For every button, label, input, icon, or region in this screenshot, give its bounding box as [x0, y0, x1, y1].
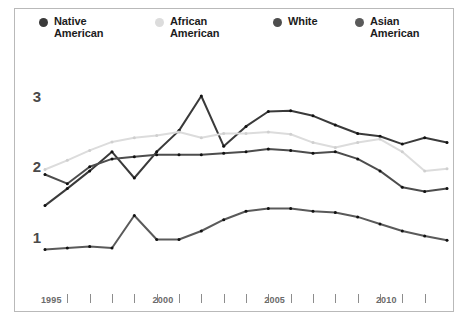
series-marker — [401, 143, 404, 146]
series-marker — [423, 169, 426, 172]
series-marker — [111, 157, 114, 160]
series-marker — [446, 187, 449, 190]
series-marker — [312, 141, 315, 144]
series-marker — [155, 150, 158, 153]
series-marker — [111, 247, 114, 250]
series-marker — [200, 153, 203, 156]
series-marker — [446, 167, 449, 170]
series-marker — [312, 114, 315, 117]
series-marker — [423, 235, 426, 238]
x-axis-tick — [112, 294, 113, 303]
x-axis-tick — [335, 294, 336, 303]
series-marker — [66, 187, 69, 190]
series-marker — [446, 239, 449, 242]
x-axis-tick — [179, 294, 180, 303]
series-marker — [155, 153, 158, 156]
series-marker — [334, 150, 337, 153]
series-marker — [267, 207, 270, 210]
series-line-white — [45, 149, 447, 191]
series-marker — [379, 223, 382, 226]
series-marker — [312, 210, 315, 213]
series-marker — [312, 152, 315, 155]
series-marker — [423, 136, 426, 139]
series-marker — [245, 210, 248, 213]
series-marker — [88, 169, 91, 172]
chart-frame: Native AmericanAfrican AmericanWhiteAsia… — [14, 8, 454, 312]
series-marker — [267, 110, 270, 113]
x-axis-label: 2000 — [153, 295, 174, 305]
series-marker — [222, 218, 225, 221]
series-marker — [379, 135, 382, 138]
x-axis-label: 2005 — [264, 295, 285, 305]
series-marker — [133, 214, 136, 217]
series-marker — [289, 149, 292, 152]
series-marker — [289, 207, 292, 210]
series-marker — [401, 186, 404, 189]
series-marker — [222, 145, 225, 148]
series-marker — [423, 190, 426, 193]
series-marker — [111, 150, 114, 153]
series-marker — [379, 138, 382, 141]
series-marker — [334, 124, 337, 127]
chart-plot-area: 1231995200020052010 — [15, 9, 455, 313]
series-marker — [178, 238, 181, 241]
series-marker — [222, 152, 225, 155]
series-marker — [88, 245, 91, 248]
x-axis-tick — [224, 294, 225, 303]
series-marker — [44, 168, 47, 171]
series-marker — [200, 230, 203, 233]
series-marker — [133, 177, 136, 180]
series-marker — [200, 95, 203, 98]
series-marker — [356, 132, 359, 135]
x-axis-label: 2010 — [376, 295, 397, 305]
y-axis-label: 1 — [23, 229, 41, 246]
series-marker — [334, 211, 337, 214]
series-marker — [66, 182, 69, 185]
series-marker — [66, 247, 69, 250]
series-marker — [356, 215, 359, 218]
series-marker — [267, 148, 270, 151]
series-marker — [155, 134, 158, 137]
series-marker — [111, 140, 114, 143]
series-marker — [44, 248, 47, 251]
series-marker — [178, 153, 181, 156]
series-marker — [401, 150, 404, 153]
series-marker — [379, 169, 382, 172]
series-marker — [356, 157, 359, 160]
x-axis-tick — [425, 294, 426, 303]
series-marker — [133, 136, 136, 139]
series-marker — [245, 150, 248, 153]
series-marker — [245, 125, 248, 128]
x-axis-tick — [358, 294, 359, 303]
series-marker — [155, 238, 158, 241]
y-axis-label: 3 — [23, 88, 41, 105]
series-marker — [289, 133, 292, 136]
series-line-asian-american — [45, 208, 447, 249]
x-axis-tick — [313, 294, 314, 303]
series-marker — [356, 141, 359, 144]
chart-lines-svg — [15, 9, 455, 313]
series-marker — [222, 132, 225, 135]
x-axis-tick — [402, 294, 403, 303]
series-marker — [289, 109, 292, 112]
x-axis-label: 1995 — [41, 295, 62, 305]
series-marker — [44, 173, 47, 176]
series-marker — [88, 149, 91, 152]
series-marker — [88, 165, 91, 168]
x-axis-tick — [291, 294, 292, 303]
series-marker — [44, 204, 47, 207]
series-marker — [446, 141, 449, 144]
series-marker — [200, 136, 203, 139]
series-marker — [133, 155, 136, 158]
series-marker — [245, 132, 248, 135]
series-marker — [178, 131, 181, 134]
x-axis-tick — [67, 294, 68, 303]
y-axis-label: 2 — [23, 158, 41, 175]
series-marker — [334, 146, 337, 149]
series-marker — [267, 131, 270, 134]
x-axis-tick — [201, 294, 202, 303]
x-axis-tick — [134, 294, 135, 303]
x-axis-tick — [246, 294, 247, 303]
series-marker — [401, 230, 404, 233]
x-axis-tick — [90, 294, 91, 303]
